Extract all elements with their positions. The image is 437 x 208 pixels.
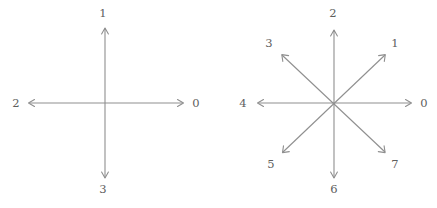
direction-label-0: 0 <box>192 98 199 110</box>
direction-label-4: 4 <box>239 98 246 110</box>
diagram-8-connectivity-vectors <box>218 0 437 208</box>
direction-label-1: 1 <box>99 8 106 20</box>
direction-label-2: 2 <box>329 8 336 20</box>
diagram-4-connectivity: 0 1 2 3 <box>0 0 218 208</box>
diagram-4-connectivity-vectors <box>0 0 218 208</box>
direction-label-2: 2 <box>12 98 19 110</box>
figure-canvas: 0 1 2 3 <box>0 0 437 208</box>
direction-label-6: 6 <box>330 184 337 196</box>
direction-label-7: 7 <box>391 159 398 171</box>
direction-label-3: 3 <box>99 184 106 196</box>
direction-label-0: 0 <box>420 98 427 110</box>
direction-label-5: 5 <box>267 159 274 171</box>
direction-label-1: 1 <box>391 38 398 50</box>
diagram-8-connectivity: 0 1 2 3 4 5 6 7 <box>218 0 437 208</box>
direction-label-3: 3 <box>265 38 272 50</box>
